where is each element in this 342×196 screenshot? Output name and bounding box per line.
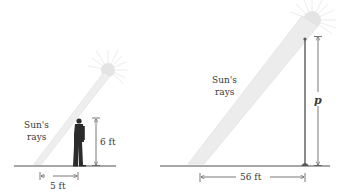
rays-label-right-line1: Sun's bbox=[212, 75, 237, 85]
shadow-label-right: 56 ft bbox=[240, 172, 262, 182]
person-icon bbox=[73, 118, 86, 166]
rays-label-right-line2: rays bbox=[215, 87, 235, 97]
shadow-dimension-left bbox=[40, 172, 78, 180]
left-figure: 6 ft 5 ft Sun's rays bbox=[14, 50, 128, 191]
height-label-right: p bbox=[314, 94, 322, 107]
sun-ray-left bbox=[34, 72, 110, 166]
rays-label-left-line1: Sun's bbox=[24, 120, 49, 130]
right-figure: p 56 ft Sun's rays bbox=[160, 0, 336, 183]
height-dimension-left bbox=[92, 118, 100, 166]
pole bbox=[301, 37, 309, 166]
sun-ray-right bbox=[188, 16, 318, 164]
rays-label-left-line2: rays bbox=[27, 132, 47, 142]
shadow-label-left: 5 ft bbox=[50, 181, 66, 191]
height-label-left: 6 ft bbox=[100, 137, 116, 147]
